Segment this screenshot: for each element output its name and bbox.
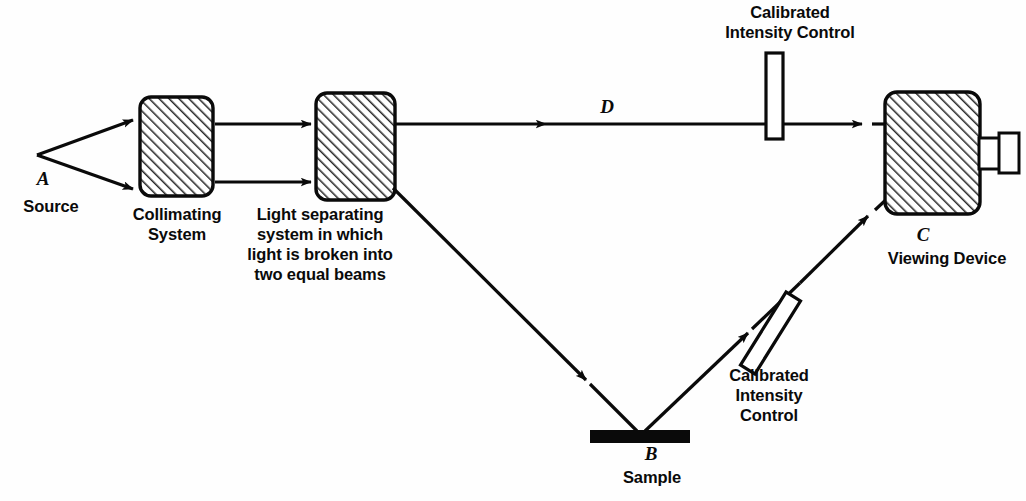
reference-beam-letter: D bbox=[592, 96, 622, 118]
sample-bar-rect bbox=[590, 430, 690, 443]
light-separating-system bbox=[316, 93, 395, 200]
sample-letter-label: B bbox=[636, 443, 666, 465]
viewing-device-box bbox=[885, 92, 980, 214]
source-letter-label: A bbox=[26, 168, 60, 190]
light-separating-label: Light separating system in which light i… bbox=[236, 204, 404, 284]
control-top-label: Calibrated Intensity Control bbox=[700, 2, 880, 42]
calibrated-intensity-control-lower bbox=[741, 292, 801, 374]
optical-schematic-svg bbox=[0, 0, 1026, 501]
sample-incident-segment-1 bbox=[393, 188, 586, 380]
sample-reflected-segment-3 bbox=[800, 216, 868, 283]
control-top-plate bbox=[766, 53, 783, 139]
sample-incident-segment-2 bbox=[590, 384, 637, 431]
collimating-system-label: Collimating System bbox=[112, 204, 242, 244]
eyepiece-outer-barrel bbox=[999, 133, 1019, 173]
viewing-device-label: Viewing Device bbox=[876, 248, 1018, 268]
figure-canvas: A Source Collimating System Light separa… bbox=[0, 0, 1026, 501]
viewing-device-letter: C bbox=[908, 224, 938, 246]
sample-label: Sample bbox=[602, 467, 702, 487]
sample-bar bbox=[590, 430, 690, 443]
calibrated-intensity-control-top bbox=[766, 53, 783, 139]
collimating-system-box bbox=[140, 97, 213, 196]
sample-incident-beam bbox=[393, 188, 637, 431]
viewing-device bbox=[885, 92, 1019, 214]
light-separating-system-box bbox=[316, 93, 395, 200]
collimating-system bbox=[140, 97, 213, 196]
control-lower-label: Calibrated Intensity Control bbox=[706, 365, 832, 425]
control-lower-plate bbox=[741, 292, 801, 374]
source-upper-ray bbox=[37, 120, 133, 155]
source-label: Source bbox=[6, 196, 96, 216]
collimated-beams bbox=[215, 124, 311, 182]
